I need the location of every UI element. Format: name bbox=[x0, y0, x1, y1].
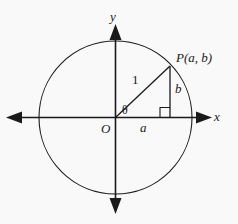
x-axis-label: x bbox=[214, 110, 220, 123]
unit-circle-figure: x y O P(a, b) 1 b a θ bbox=[0, 0, 238, 224]
figure-canvas bbox=[0, 0, 238, 224]
x-axis-arrow-left-icon bbox=[6, 112, 22, 124]
horizontal-leg-label: a bbox=[140, 121, 147, 134]
angle-theta-label: θ bbox=[122, 104, 128, 116]
right-angle-marker-icon bbox=[160, 108, 170, 118]
point-p-label: P(a, b) bbox=[176, 51, 212, 64]
y-axis-arrow-up-icon bbox=[110, 24, 122, 40]
y-axis-arrow-down-icon bbox=[110, 198, 122, 214]
origin-label: O bbox=[101, 122, 110, 135]
y-axis-label: y bbox=[110, 10, 116, 23]
hypotenuse-length-label: 1 bbox=[132, 73, 139, 86]
vertical-leg-label: b bbox=[175, 82, 182, 95]
x-axis-arrow-right-icon bbox=[196, 112, 212, 124]
y-axis bbox=[110, 24, 122, 214]
